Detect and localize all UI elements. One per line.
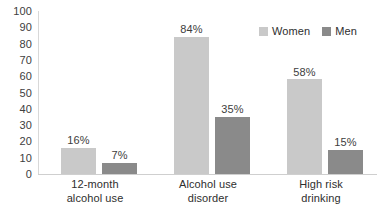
bar-label-men-alcohol-use-disorder: 35% [221, 104, 243, 115]
legend-label-men: Men [335, 26, 357, 37]
legend-item-women[interactable]: Women [259, 26, 310, 37]
x-label-line-2: disorder [179, 191, 237, 205]
y-tick-0: 0 [26, 169, 32, 180]
y-tick-80: 80 [20, 38, 32, 49]
y-axis: 100 90 80 70 60 50 40 30 20 10 0 [0, 0, 38, 180]
chart-legend: Women Men [259, 26, 357, 37]
legend-swatch-men-icon [322, 27, 331, 36]
x-label-12-month-alcohol-use: 12-month alcohol use [67, 177, 124, 205]
bar-women-12-month-alcohol-use[interactable] [61, 148, 96, 174]
y-tick-50: 50 [20, 87, 32, 98]
bar-chart: 100 90 80 70 60 50 40 30 20 10 0 16% 7% … [0, 0, 378, 209]
x-label-alcohol-use-disorder: Alcohol use disorder [179, 177, 237, 205]
bar-label-women-alcohol-use-disorder: 84% [180, 24, 202, 35]
bar-group-12-month-alcohol-use: 16% 7% [39, 11, 151, 174]
legend-swatch-women-icon [259, 27, 268, 36]
bar-men-high-risk-drinking[interactable] [328, 150, 363, 174]
y-tick-20: 20 [20, 136, 32, 147]
bar-men-alcohol-use-disorder[interactable] [215, 117, 250, 174]
x-label-high-risk-drinking: High risk drinking [299, 177, 343, 205]
y-tick-40: 40 [20, 103, 32, 114]
y-tick-30: 30 [20, 120, 32, 131]
y-tick-90: 90 [20, 22, 32, 33]
bar-label-men-high-risk-drinking: 15% [334, 137, 356, 148]
x-axis-line [38, 174, 377, 175]
bar-label-women-high-risk-drinking: 58% [293, 67, 315, 78]
legend-item-men[interactable]: Men [322, 26, 357, 37]
bar-label-women-12-month-alcohol-use: 16% [67, 135, 89, 146]
x-label-line-1: High risk [299, 177, 343, 191]
x-label-line-2: alcohol use [67, 191, 124, 205]
y-tick-10: 10 [20, 152, 32, 163]
y-tick-100: 100 [13, 6, 32, 17]
bar-group-alcohol-use-disorder: 84% 35% [152, 11, 264, 174]
y-tick-70: 70 [20, 54, 32, 65]
x-label-line-1: Alcohol use [179, 177, 237, 191]
bar-label-men-12-month-alcohol-use: 7% [111, 150, 127, 161]
legend-label-women: Women [272, 26, 310, 37]
bar-men-12-month-alcohol-use[interactable] [102, 163, 137, 174]
y-tick-60: 60 [20, 71, 32, 82]
x-axis-labels: 12-month alcohol use Alcohol use disorde… [39, 177, 377, 209]
bar-women-high-risk-drinking[interactable] [287, 79, 322, 174]
bar-women-alcohol-use-disorder[interactable] [174, 37, 209, 174]
x-label-line-2: drinking [299, 191, 343, 205]
x-label-line-1: 12-month [67, 177, 124, 191]
